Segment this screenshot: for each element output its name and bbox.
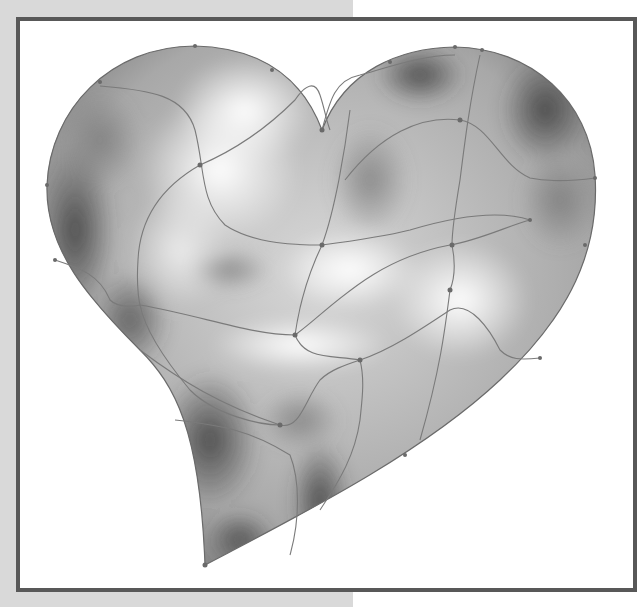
heart-illustration <box>0 0 643 607</box>
